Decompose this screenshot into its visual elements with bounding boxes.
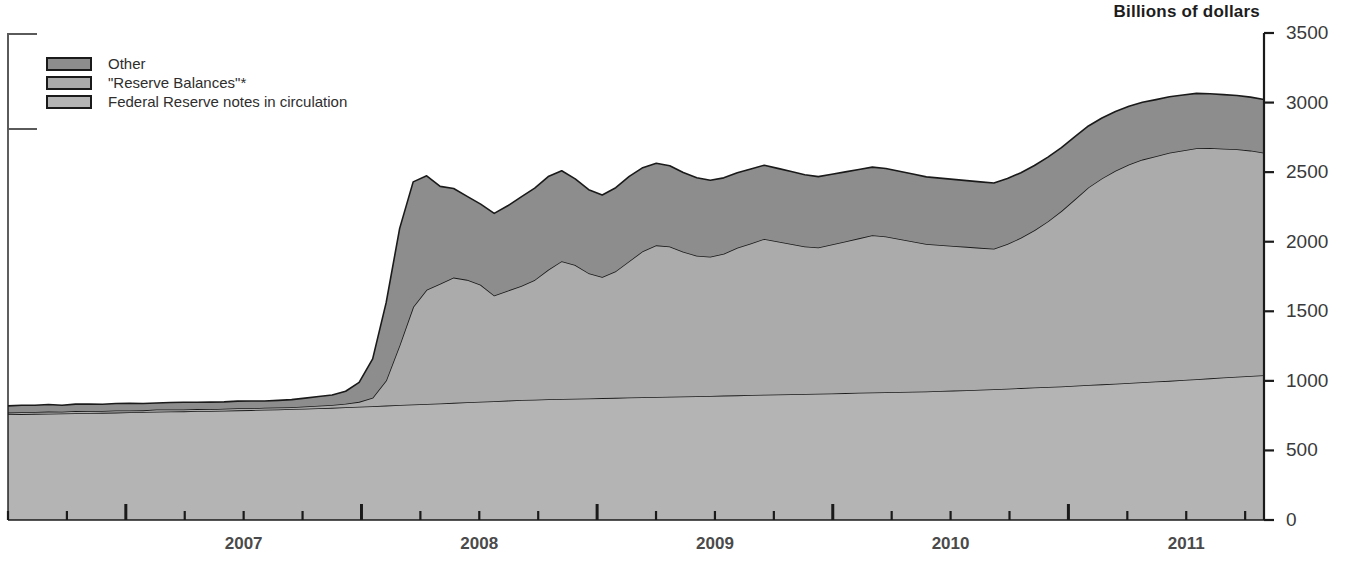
- legend-label-federal-reserve-notes: Federal Reserve notes in circulation: [108, 92, 347, 111]
- legend-item-federal-reserve-notes: Federal Reserve notes in circulation: [46, 92, 347, 111]
- series-layer: [8, 93, 1264, 520]
- x-tick-2007: 2007: [225, 534, 263, 554]
- y-axis-title: Billions of dollars: [1114, 2, 1260, 22]
- y-tick-2000: 2000: [1286, 231, 1328, 253]
- legend-swatch-reserve-balances: [46, 76, 92, 90]
- legend-swatch-other: [46, 57, 92, 71]
- y-tick-3500: 3500: [1286, 22, 1328, 44]
- y-tick-1000: 1000: [1286, 370, 1328, 392]
- y-tick-1500: 1500: [1286, 300, 1328, 322]
- y-tick-3000: 3000: [1286, 92, 1328, 114]
- legend-item-reserve-balances: "Reserve Balances"*: [46, 73, 347, 92]
- chart-legend: Other "Reserve Balances"* Federal Reserv…: [46, 54, 347, 111]
- x-tick-2010: 2010: [932, 534, 970, 554]
- legend-label-other: Other: [108, 54, 146, 73]
- y-tick-0: 0: [1286, 509, 1297, 531]
- y-tick-2500: 2500: [1286, 161, 1328, 183]
- x-tick-2009: 2009: [696, 534, 734, 554]
- legend-item-other: Other: [46, 54, 347, 73]
- x-tick-2011: 2011: [1168, 534, 1205, 554]
- chart-container: Billions of dollars Other "Reserve Balan…: [0, 0, 1346, 567]
- x-tick-2008: 2008: [460, 534, 498, 554]
- y-tick-500: 500: [1286, 439, 1318, 461]
- legend-swatch-federal-reserve-notes: [46, 95, 92, 109]
- legend-bracket: [7, 33, 35, 130]
- legend-label-reserve-balances: "Reserve Balances"*: [108, 73, 246, 92]
